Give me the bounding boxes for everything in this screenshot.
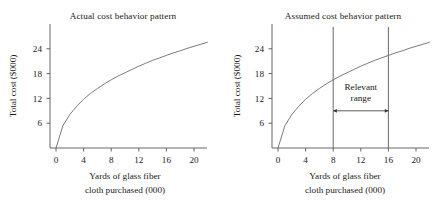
relevant-range-label-line2: range <box>351 93 371 103</box>
x-axis-label-line2: cloth purchased (000) <box>14 184 236 198</box>
x-axis-label-actual: Yards of glass fiber cloth purchased (00… <box>0 170 236 197</box>
x-tick-label-20: 20 <box>189 155 199 165</box>
x-axis-label-assumed: Yards of glass fiber cloth purchased (00… <box>222 170 445 197</box>
relevant-range-arrow <box>333 109 388 113</box>
y-tick-label-6: 6 <box>37 118 42 128</box>
x-tick-label-8: 8 <box>109 155 114 165</box>
x-tick-label-16: 16 <box>162 155 172 165</box>
x-tick-label-20: 20 <box>411 155 421 165</box>
cost-curve-actual <box>56 42 208 148</box>
y-tick-label-24: 24 <box>33 44 43 54</box>
x-tick-label-12: 12 <box>356 155 366 165</box>
y-tick-label-18: 18 <box>33 69 43 79</box>
x-tick-label-16: 16 <box>384 155 394 165</box>
x-tick-label-0: 0 <box>276 155 281 165</box>
cost-behavior-figure: Actual cost behavior pattern Total cost … <box>0 0 445 212</box>
x-axis-label-line1: Yards of glass fiber <box>234 170 445 184</box>
chart-panel-assumed: Assumed cost behavior pattern Total cost… <box>222 0 444 212</box>
chart-panel-actual: Actual cost behavior pattern Total cost … <box>0 0 222 212</box>
x-tick-label-12: 12 <box>134 155 144 165</box>
x-tick-label-8: 8 <box>331 155 336 165</box>
x-tick-label-4: 4 <box>303 155 308 165</box>
y-tick-label-12: 12 <box>255 94 265 104</box>
x-tick-label-0: 0 <box>54 155 59 165</box>
y-tick-label-24: 24 <box>255 44 265 54</box>
x-axis-label-line1: Yards of glass fiber <box>14 170 236 184</box>
x-axis-label-line2: cloth purchased (000) <box>234 184 445 198</box>
relevant-range-label-line1: Relevant <box>344 82 377 92</box>
y-tick-label-12: 12 <box>33 94 43 104</box>
x-tick-label-4: 4 <box>81 155 86 165</box>
y-tick-label-18: 18 <box>255 69 265 79</box>
y-tick-label-6: 6 <box>259 118 264 128</box>
